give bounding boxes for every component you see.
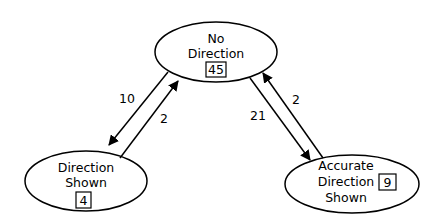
node-direction-shown: Direction Shown 4 [25,151,147,211]
edge-label: 2 [160,111,168,126]
edge-label: 21 [250,108,266,123]
node-label-line: Shown [325,190,367,205]
count-value: 4 [80,193,88,208]
state-diagram: No Direction 45 Direction Shown 4 Accura… [0,0,429,224]
edge-no-direction-to-accurate-direction-shown: 21 [250,78,310,160]
arrow-icon [263,73,323,158]
edge-label: 10 [119,91,135,106]
node-label-line: No [208,31,225,46]
node-label-line: Accurate [318,158,374,173]
edge-label: 2 [292,92,300,107]
edge-accurate-direction-shown-to-no-direction: 2 [263,73,323,158]
node-label-line: Direction [58,160,114,175]
node-no-direction: No Direction 45 [155,22,277,82]
node-label-line: Direction [188,46,244,61]
node-label-line: Shown [65,175,107,190]
node-label-line: Direction [318,174,374,189]
count-value: 9 [384,175,392,190]
node-accurate-direction-shown: Accurate Direction Shown 9 [285,155,419,213]
count-value: 45 [208,62,224,77]
